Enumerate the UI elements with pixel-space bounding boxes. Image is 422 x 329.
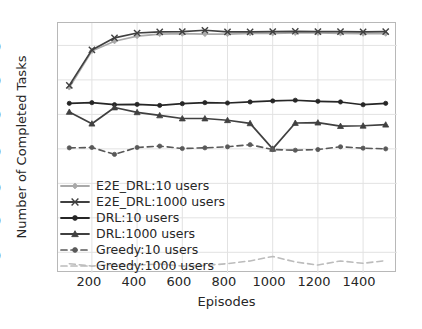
x-tick-label: 400 <box>111 275 157 288</box>
x-tick-label: 600 <box>156 275 202 288</box>
legend-label: E2E_DRL:1000 users <box>96 195 225 209</box>
y-tick-label: 600 <box>0 108 1 121</box>
legend-marker-e2e-drl-10-users <box>60 179 90 193</box>
legend-label: DRL:1000 users <box>96 227 195 241</box>
y-tick-label: 800 <box>0 40 1 53</box>
legend-marker-greedy-10-users <box>60 243 90 257</box>
legend-marker-drl-10-users <box>60 211 90 225</box>
chart-legend: E2E_DRL:10 users E2E_DRL:1000 users DRL:… <box>60 178 225 274</box>
y-tick-label: 500 <box>0 145 1 158</box>
legend-label: Greedy:10 users <box>96 243 198 257</box>
legend-item: Greedy:10 users <box>60 242 225 258</box>
x-tick-label: 200 <box>66 275 112 288</box>
y-tick-label: 400 <box>0 181 1 194</box>
y-axis-label: Number of Completed Tasks <box>14 22 29 272</box>
legend-item: Greedy:1000 users <box>60 258 225 274</box>
legend-item: DRL:10 users <box>60 210 225 226</box>
x-tick-label: 1400 <box>336 275 382 288</box>
legend-label: E2E_DRL:10 users <box>96 179 209 193</box>
chart-figure: Number of Completed Tasks 800 700 600 50… <box>0 0 422 329</box>
legend-item: E2E_DRL:1000 users <box>60 194 225 210</box>
x-tick-label: 1000 <box>246 275 292 288</box>
x-tick-label: 1200 <box>291 275 337 288</box>
y-tick-label: 200 <box>0 249 1 262</box>
legend-item: E2E_DRL:10 users <box>60 178 225 194</box>
x-tick-label: 800 <box>201 275 247 288</box>
legend-marker-greedy-1000-users <box>60 259 90 273</box>
x-axis-label: Episodes <box>57 294 396 309</box>
legend-label: Greedy:1000 users <box>96 259 214 273</box>
legend-marker-drl-1000-users <box>60 227 90 241</box>
legend-label: DRL:10 users <box>96 211 179 225</box>
y-tick-label: 300 <box>0 214 1 227</box>
legend-marker-e2e-drl-1000-users <box>60 195 90 209</box>
legend-item: DRL:1000 users <box>60 226 225 242</box>
y-tick-label: 700 <box>0 74 1 87</box>
